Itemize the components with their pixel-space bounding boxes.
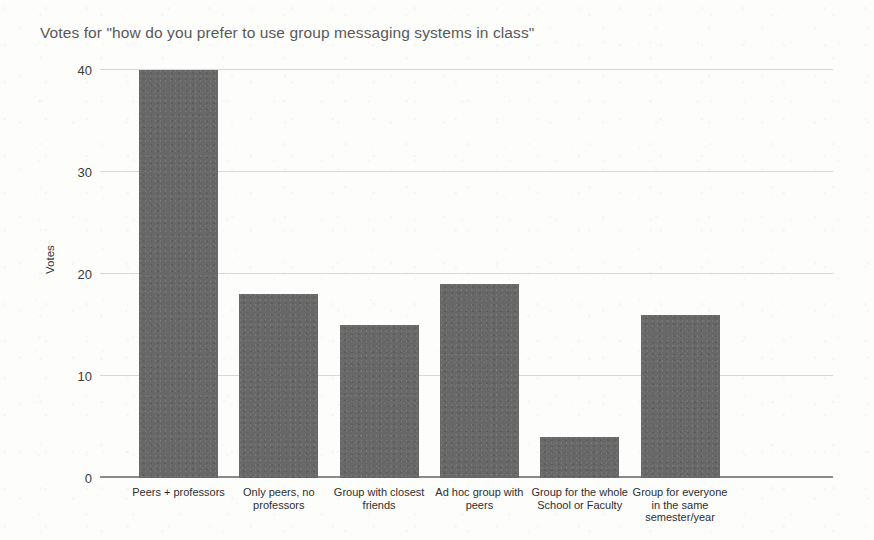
- y-tick-label-40: 40: [0, 63, 92, 78]
- y-tick-label-30: 30: [0, 165, 92, 180]
- chart-title: Votes for "how do you prefer to use grou…: [40, 24, 534, 42]
- x-tick-label: Group for everyone in the same semester/…: [620, 486, 740, 524]
- plot-area: [100, 70, 833, 478]
- bar: [641, 315, 720, 478]
- bar: [440, 284, 519, 478]
- y-tick-label-10: 10: [0, 369, 92, 384]
- y-tick-label-0: 0: [0, 471, 92, 486]
- chart-screenshot: Votes for "how do you prefer to use grou…: [0, 0, 874, 540]
- bar: [239, 294, 318, 478]
- bar: [540, 437, 619, 478]
- bar: [139, 70, 218, 478]
- bar: [340, 325, 419, 478]
- y-tick-label-20: 20: [0, 267, 92, 282]
